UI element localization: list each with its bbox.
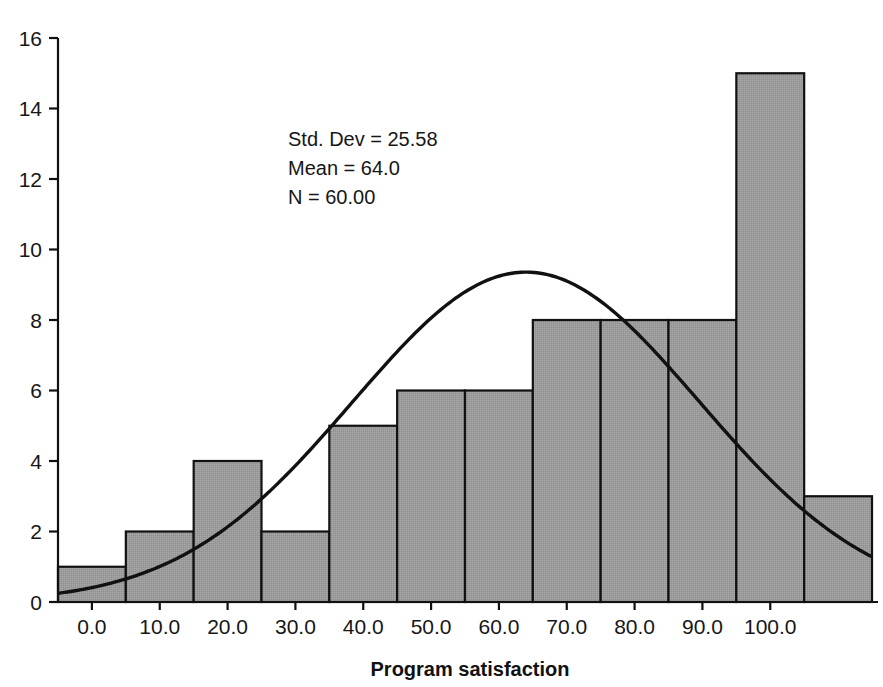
x-tick-label: 90.0: [682, 615, 723, 638]
histogram-bar: [465, 391, 533, 603]
histogram-bar: [533, 320, 601, 602]
bars-group: [58, 73, 872, 602]
y-tick-label: 16: [19, 27, 42, 50]
annotation-std-dev: Std. Dev = 25.58: [288, 128, 438, 150]
x-tick-label: 10.0: [139, 615, 180, 638]
histogram-bar: [736, 73, 804, 602]
x-tick-label: 100.0: [744, 615, 797, 638]
chart-canvas: 0246810121416 0.010.020.030.040.050.060.…: [0, 0, 883, 687]
x-tick-label: 40.0: [343, 615, 384, 638]
histogram-bar: [329, 426, 397, 602]
y-tick-label: 0: [30, 591, 42, 614]
histogram-bar: [397, 391, 465, 603]
x-axis-title: Program satisfaction: [371, 658, 570, 680]
histogram-bar: [669, 320, 737, 602]
histogram-bar: [262, 532, 330, 603]
y-tick-label: 8: [30, 309, 42, 332]
x-tick-label: 70.0: [546, 615, 587, 638]
x-tick-label: 0.0: [77, 615, 106, 638]
x-tick-label: 60.0: [478, 615, 519, 638]
y-tick-label: 6: [30, 379, 42, 402]
x-tick-label: 50.0: [411, 615, 452, 638]
histogram-bar: [58, 567, 126, 602]
stats-annotation-block: Std. Dev = 25.58 Mean = 64.0 N = 60.00: [288, 128, 438, 208]
y-tick-label: 10: [19, 238, 42, 261]
y-tick-label: 4: [30, 450, 42, 473]
x-tick-label: 30.0: [275, 615, 316, 638]
histogram-figure: 0246810121416 0.010.020.030.040.050.060.…: [0, 0, 883, 687]
annotation-mean: Mean = 64.0: [288, 157, 400, 179]
y-tick-labels: 0246810121416: [19, 27, 43, 614]
y-tick-label: 12: [19, 168, 42, 191]
y-tick-label: 14: [19, 97, 43, 120]
annotation-n: N = 60.00: [288, 186, 375, 208]
x-tick-label: 20.0: [207, 615, 248, 638]
histogram-bar: [194, 461, 262, 602]
x-tick-label: 80.0: [614, 615, 655, 638]
histogram-bar: [804, 496, 872, 602]
y-tick-label: 2: [30, 520, 42, 543]
x-tick-labels: 0.010.020.030.040.050.060.070.080.090.01…: [77, 615, 796, 638]
histogram-bar: [601, 320, 669, 602]
